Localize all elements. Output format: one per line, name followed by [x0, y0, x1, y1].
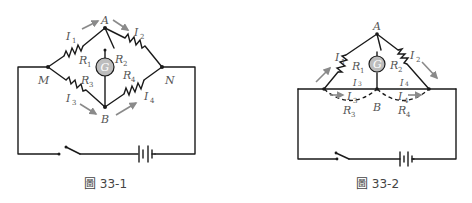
svg-text:I: I [409, 49, 415, 62]
svg-text:I: I [352, 78, 357, 88]
node-label-n: N [164, 74, 175, 87]
arrow-i4-icon [116, 103, 136, 115]
svg-text:I: I [133, 26, 139, 39]
svg-text:4: 4 [404, 97, 409, 105]
svg-text:R: R [114, 53, 123, 66]
svg-text:4: 4 [405, 80, 409, 87]
svg-text:R: R [389, 59, 398, 72]
svg-text:R: R [78, 54, 87, 67]
label-i2-2: I 2 [409, 49, 420, 64]
svg-text:R: R [397, 104, 406, 117]
svg-text:I: I [346, 90, 352, 103]
dashed-r4 [377, 89, 429, 101]
svg-text:3: 3 [72, 99, 76, 107]
svg-text:G: G [373, 58, 382, 71]
svg-text:2: 2 [140, 33, 144, 41]
svg-text:I: I [399, 78, 404, 88]
label-i2: I 2 [133, 26, 144, 41]
svg-text:2: 2 [398, 66, 402, 74]
svg-text:G: G [101, 61, 110, 74]
svg-text:I: I [143, 90, 149, 103]
node-label-a: A [100, 14, 109, 27]
label-i4-2: I 4 [397, 90, 409, 105]
label-i1: I 1 [65, 30, 76, 45]
outer-circuit-2 [298, 89, 456, 159]
battery-2 [400, 152, 414, 166]
svg-text:2: 2 [416, 56, 420, 64]
svg-text:1: 1 [72, 37, 76, 45]
arrow-i1-2-icon [316, 68, 330, 82]
switch-2 [335, 152, 349, 161]
svg-text:3: 3 [89, 81, 93, 89]
node-label-b-2: B [372, 101, 381, 114]
svg-text:R: R [351, 60, 360, 73]
svg-text:3: 3 [353, 97, 357, 105]
galvanometer: G [96, 58, 114, 76]
caption-fig-33-2: 圖 33-2 [356, 177, 399, 191]
label-i1-2: I 1 [334, 51, 345, 66]
node-label-a-2: A [372, 20, 381, 33]
svg-text:I: I [65, 92, 71, 105]
resistor-r3-branch [48, 67, 105, 107]
svg-text:2: 2 [123, 60, 127, 68]
label-i3-2: I 3 [346, 90, 357, 105]
svg-text:3: 3 [358, 80, 362, 87]
svg-text:I: I [334, 51, 340, 64]
node-label-b: B [100, 113, 109, 126]
svg-text:4: 4 [131, 76, 136, 84]
label-r3: R 3 [80, 74, 93, 89]
svg-text:I: I [397, 90, 403, 103]
wire-label-i4: I 4 [399, 78, 409, 88]
label-i4: I 4 [143, 90, 155, 105]
arrow-i1-icon [82, 21, 98, 29]
svg-text:R: R [342, 104, 351, 117]
label-r3-2: R 3 [342, 104, 355, 119]
arrow-i3-icon [80, 104, 96, 114]
svg-text:4: 4 [406, 111, 411, 119]
svg-text:4: 4 [150, 97, 155, 105]
label-r4-2: R 4 [397, 104, 411, 119]
label-r2-2: R 2 [389, 59, 402, 74]
svg-text:R: R [122, 69, 131, 82]
battery [139, 146, 155, 162]
arrow-i2-2-icon [422, 62, 437, 78]
svg-text:1: 1 [341, 58, 345, 66]
switch [58, 146, 81, 156]
caption-fig-33-1: 圖 33-1 [84, 177, 127, 191]
wire-label-i3: I 3 [352, 78, 362, 88]
circuit-diagrams: G A M N B R [0, 0, 472, 203]
resistor-r1-branch [48, 28, 105, 67]
label-r1-2: R 1 [351, 60, 364, 75]
arrow-i2-icon [113, 20, 128, 30]
galvanometer-2: G [369, 56, 385, 72]
label-i3: I 3 [65, 92, 76, 107]
svg-text:I: I [65, 30, 71, 43]
label-r2: R 2 [114, 53, 127, 68]
node-label-m: M [37, 74, 50, 87]
label-r1: R 1 [78, 54, 91, 69]
figure-33-1: G A M N B R [18, 14, 195, 191]
svg-text:R: R [80, 74, 89, 87]
label-r4: R 4 [122, 69, 136, 84]
svg-text:3: 3 [351, 111, 355, 119]
svg-text:1: 1 [360, 67, 364, 75]
figure-33-2: G A [298, 20, 456, 191]
svg-text:1: 1 [87, 61, 91, 69]
